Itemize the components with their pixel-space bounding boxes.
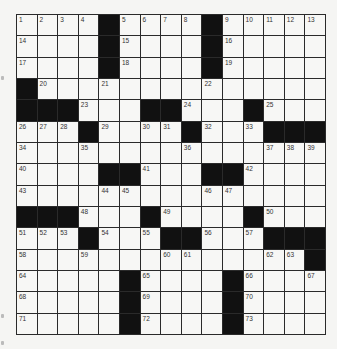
grid-cell[interactable] <box>120 250 140 270</box>
grid-cell[interactable] <box>120 228 140 248</box>
grid-cell[interactable] <box>161 164 181 184</box>
grid-cell[interactable] <box>264 58 284 78</box>
grid-cell[interactable]: 15 <box>120 36 140 56</box>
grid-cell[interactable]: 33 <box>244 122 264 142</box>
grid-cell[interactable] <box>182 58 202 78</box>
grid-cell[interactable] <box>202 271 222 291</box>
grid-cell[interactable]: 42 <box>244 164 264 184</box>
grid-cell[interactable] <box>182 79 202 99</box>
grid-cell[interactable] <box>120 122 140 142</box>
grid-cell[interactable] <box>285 58 305 78</box>
grid-cell[interactable] <box>285 271 305 291</box>
grid-cell[interactable]: 31 <box>161 122 181 142</box>
grid-cell[interactable] <box>99 100 119 120</box>
grid-cell[interactable] <box>38 271 58 291</box>
grid-cell[interactable]: 40 <box>17 164 37 184</box>
grid-cell[interactable] <box>58 36 78 56</box>
grid-cell[interactable] <box>79 186 99 206</box>
grid-cell[interactable] <box>161 36 181 56</box>
grid-cell[interactable]: 9 <box>223 15 243 35</box>
grid-cell[interactable] <box>223 250 243 270</box>
grid-cell[interactable] <box>120 207 140 227</box>
grid-cell[interactable]: 32 <box>202 122 222 142</box>
grid-cell[interactable] <box>38 143 58 163</box>
grid-cell[interactable]: 10 <box>244 15 264 35</box>
grid-cell[interactable] <box>38 250 58 270</box>
grid-cell[interactable] <box>141 143 161 163</box>
grid-cell[interactable] <box>38 292 58 312</box>
grid-cell[interactable] <box>285 100 305 120</box>
grid-cell[interactable]: 69 <box>141 292 161 312</box>
grid-cell[interactable]: 13 <box>305 15 325 35</box>
grid-cell[interactable]: 50 <box>264 207 284 227</box>
grid-cell[interactable]: 20 <box>38 79 58 99</box>
grid-cell[interactable]: 24 <box>182 100 202 120</box>
grid-cell[interactable]: 51 <box>17 228 37 248</box>
grid-cell[interactable]: 64 <box>17 271 37 291</box>
grid-cell[interactable] <box>285 292 305 312</box>
grid-cell[interactable] <box>79 292 99 312</box>
grid-cell[interactable]: 37 <box>264 143 284 163</box>
grid-cell[interactable] <box>305 164 325 184</box>
grid-cell[interactable] <box>264 79 284 99</box>
grid-cell[interactable] <box>58 164 78 184</box>
grid-cell[interactable]: 63 <box>285 250 305 270</box>
grid-cell[interactable] <box>182 292 202 312</box>
grid-cell[interactable]: 46 <box>202 186 222 206</box>
grid-cell[interactable]: 52 <box>38 228 58 248</box>
grid-cell[interactable]: 6 <box>141 15 161 35</box>
grid-cell[interactable] <box>58 292 78 312</box>
grid-cell[interactable] <box>141 79 161 99</box>
grid-cell[interactable]: 18 <box>120 58 140 78</box>
grid-cell[interactable] <box>244 186 264 206</box>
grid-cell[interactable] <box>285 186 305 206</box>
grid-cell[interactable]: 16 <box>223 36 243 56</box>
grid-cell[interactable] <box>99 143 119 163</box>
grid-cell[interactable] <box>285 314 305 334</box>
grid-cell[interactable]: 60 <box>161 250 181 270</box>
grid-cell[interactable] <box>182 207 202 227</box>
grid-cell[interactable] <box>58 58 78 78</box>
grid-cell[interactable]: 36 <box>182 143 202 163</box>
grid-cell[interactable]: 70 <box>244 292 264 312</box>
grid-cell[interactable] <box>141 58 161 78</box>
grid-cell[interactable] <box>305 79 325 99</box>
grid-cell[interactable] <box>58 79 78 99</box>
grid-cell[interactable]: 68 <box>17 292 37 312</box>
grid-cell[interactable]: 17 <box>17 58 37 78</box>
grid-cell[interactable]: 26 <box>17 122 37 142</box>
grid-cell[interactable] <box>305 100 325 120</box>
grid-cell[interactable]: 48 <box>79 207 99 227</box>
grid-cell[interactable] <box>79 79 99 99</box>
grid-cell[interactable]: 25 <box>264 100 284 120</box>
grid-cell[interactable]: 11 <box>264 15 284 35</box>
grid-cell[interactable]: 7 <box>161 15 181 35</box>
grid-cell[interactable]: 1 <box>17 15 37 35</box>
grid-cell[interactable]: 30 <box>141 122 161 142</box>
grid-cell[interactable]: 61 <box>182 250 202 270</box>
grid-cell[interactable]: 14 <box>17 36 37 56</box>
grid-cell[interactable] <box>141 186 161 206</box>
grid-cell[interactable] <box>264 186 284 206</box>
grid-cell[interactable]: 27 <box>38 122 58 142</box>
grid-cell[interactable]: 43 <box>17 186 37 206</box>
grid-cell[interactable] <box>202 143 222 163</box>
grid-cell[interactable]: 21 <box>99 79 119 99</box>
grid-cell[interactable]: 5 <box>120 15 140 35</box>
grid-cell[interactable]: 65 <box>141 271 161 291</box>
grid-cell[interactable] <box>38 314 58 334</box>
grid-cell[interactable]: 39 <box>305 143 325 163</box>
grid-cell[interactable] <box>99 207 119 227</box>
grid-cell[interactable] <box>182 186 202 206</box>
grid-cell[interactable] <box>244 79 264 99</box>
grid-cell[interactable] <box>223 228 243 248</box>
grid-cell[interactable]: 28 <box>58 122 78 142</box>
grid-cell[interactable] <box>305 314 325 334</box>
grid-cell[interactable]: 47 <box>223 186 243 206</box>
grid-cell[interactable]: 67 <box>305 271 325 291</box>
grid-cell[interactable]: 58 <box>17 250 37 270</box>
grid-cell[interactable]: 8 <box>182 15 202 35</box>
grid-cell[interactable] <box>79 58 99 78</box>
grid-cell[interactable] <box>58 186 78 206</box>
grid-cell[interactable] <box>120 100 140 120</box>
